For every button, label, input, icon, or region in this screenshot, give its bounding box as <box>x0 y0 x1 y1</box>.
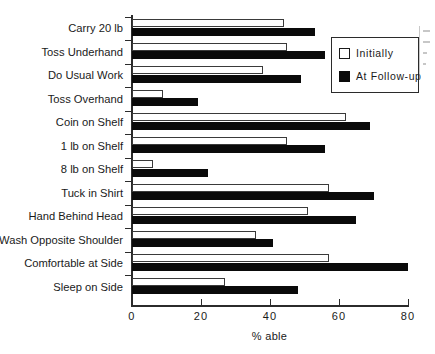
bar-initially <box>132 160 153 168</box>
category-label: Carry 20 lb <box>68 22 123 34</box>
y-axis-tick <box>125 64 133 65</box>
bar-at-follow-up <box>132 263 408 271</box>
bar-at-follow-up <box>132 145 325 153</box>
legend-label-at-follow-up: At Follow-up <box>356 70 422 82</box>
bar-initially <box>132 19 284 27</box>
x-axis-tick <box>132 299 133 307</box>
legend-swatch-at-follow-up-icon <box>339 71 350 82</box>
y-axis-tick <box>125 40 133 41</box>
chart-legend: Initially At Follow-up <box>331 37 419 93</box>
page-edge-rule <box>419 26 420 80</box>
category-label: 1 lb on Shelf <box>61 140 123 152</box>
y-axis-tick <box>125 87 133 88</box>
y-axis-tick <box>125 181 133 182</box>
legend-swatch-initially-icon <box>339 48 350 59</box>
bar-at-follow-up <box>132 239 273 247</box>
bar-at-follow-up <box>132 28 315 36</box>
x-axis-tick-label: 0 <box>128 310 135 322</box>
bar-at-follow-up <box>132 122 370 130</box>
legend-label-initially: Initially <box>356 47 394 59</box>
x-axis-tick <box>270 299 271 307</box>
bar-initially <box>132 254 329 262</box>
bar-chart-plot-area: Carry 20 lbToss UnderhandDo Usual WorkTo… <box>0 0 435 354</box>
x-axis-tick <box>201 299 202 307</box>
bar-initially <box>132 184 329 192</box>
bar-initially <box>132 137 287 145</box>
y-axis-tick <box>125 134 133 135</box>
x-axis-tick-label: 20 <box>194 310 209 322</box>
x-axis-tick <box>339 299 340 307</box>
bar-initially <box>132 90 163 98</box>
x-axis-tick-label: 80 <box>401 310 416 322</box>
x-axis-tick-label: 40 <box>263 310 278 322</box>
y-axis-tick <box>125 205 133 206</box>
bar-initially <box>132 231 256 239</box>
y-axis-tick <box>125 111 133 112</box>
bar-at-follow-up <box>132 98 198 106</box>
bar-at-follow-up <box>132 51 325 59</box>
legend-item-at-follow-up: At Follow-up <box>339 70 422 82</box>
bar-initially <box>132 278 225 286</box>
category-label: Do Usual Work <box>48 69 123 81</box>
y-axis-tick <box>125 158 133 159</box>
bar-at-follow-up <box>132 169 208 177</box>
y-axis-tick <box>125 275 133 276</box>
bar-initially <box>132 66 263 74</box>
bar-at-follow-up <box>132 216 356 224</box>
bar-initially <box>132 113 346 121</box>
category-label: Tuck in Shirt <box>61 187 123 199</box>
bar-at-follow-up <box>132 75 301 83</box>
y-axis-tick <box>125 252 133 253</box>
x-axis-title: % able <box>0 330 435 342</box>
legend-item-initially: Initially <box>339 47 394 59</box>
category-label: Toss Underhand <box>42 46 123 58</box>
bar-initially <box>132 207 308 215</box>
scan-artifact-marks <box>423 30 433 76</box>
category-label: Hand Behind Head <box>28 210 123 222</box>
x-axis-title-text: % able <box>252 330 287 342</box>
bar-initially <box>132 43 287 51</box>
category-label: Comfortable at Side <box>24 257 123 269</box>
category-label: Wash Opposite Shoulder <box>0 234 123 246</box>
figure-canvas: Carry 20 lbToss UnderhandDo Usual WorkTo… <box>0 0 435 354</box>
bar-at-follow-up <box>132 192 374 200</box>
x-axis-tick-label: 60 <box>332 310 347 322</box>
category-label: Sleep on Side <box>53 281 123 293</box>
y-axis-tick <box>125 17 133 18</box>
category-label: Coin on Shelf <box>56 116 123 128</box>
bar-at-follow-up <box>132 286 298 294</box>
x-axis-tick <box>408 299 409 307</box>
category-label: 8 lb on Shelf <box>61 163 123 175</box>
y-axis-tick <box>125 228 133 229</box>
category-label: Toss Overhand <box>48 93 123 105</box>
